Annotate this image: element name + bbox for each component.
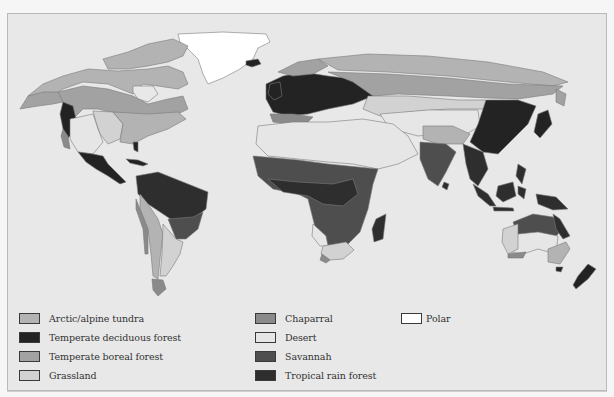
greenland-polar	[178, 32, 270, 84]
world-map	[8, 14, 606, 301]
borneo	[496, 182, 516, 202]
legend-item-savannah: Savannah	[255, 349, 331, 363]
new-zealand	[573, 264, 596, 289]
legend-item-desert: Desert	[255, 330, 317, 344]
legend-label: Grassland	[49, 370, 97, 381]
swatch-arctic-alpine-tundra	[19, 313, 40, 324]
alaska	[20, 92, 63, 109]
legend-item-arctic-alpine-tundra: Arctic/alpine tundra	[19, 311, 144, 325]
legend-item-tropical-rain-forest: Tropical rain forest	[255, 368, 376, 382]
caribbean	[126, 159, 148, 166]
canada-arctic-islands	[103, 39, 188, 69]
scandinavia	[278, 59, 328, 76]
legend-label: Polar	[426, 313, 450, 324]
swatch-chaparral	[255, 313, 276, 324]
swatch-tropical-rain-forest	[255, 370, 276, 381]
swatch-polar	[401, 313, 422, 324]
swatch-temperate-boreal-forest	[19, 351, 40, 362]
india	[420, 142, 456, 186]
sumatra	[473, 184, 496, 206]
patagonia	[152, 279, 166, 296]
philippines	[516, 164, 526, 184]
swatch-savannah	[255, 351, 276, 362]
sri-lanka	[442, 182, 449, 190]
biome-map-figure: Arctic/alpine tundra Temperate deciduous…	[7, 13, 607, 391]
north-america-east-forest	[113, 112, 186, 144]
swatch-temperate-deciduous-forest	[19, 332, 40, 343]
legend-label: Temperate boreal forest	[49, 351, 163, 362]
florida	[133, 142, 138, 152]
kamchatka	[556, 89, 566, 106]
central-america	[78, 152, 126, 184]
legend-item-temperate-boreal-forest: Temperate boreal forest	[19, 349, 163, 363]
sulawesi	[518, 186, 526, 199]
legend-item-polar: Polar	[401, 311, 450, 325]
australia-west-grassland	[502, 224, 518, 254]
legend-item-chaparral: Chaparral	[255, 311, 333, 325]
madagascar	[372, 214, 386, 242]
legend-label: Desert	[285, 332, 317, 343]
swatch-grassland	[19, 370, 40, 381]
map-legend: Arctic/alpine tundra Temperate deciduous…	[8, 301, 606, 390]
legend-item-grassland: Grassland	[19, 368, 97, 382]
legend-label: Temperate deciduous forest	[49, 332, 181, 343]
legend-label: Arctic/alpine tundra	[49, 313, 144, 324]
legend-label: Tropical rain forest	[285, 370, 376, 381]
japan	[534, 110, 552, 138]
tasmania	[556, 267, 563, 272]
legend-label: Chaparral	[285, 313, 333, 324]
legend-item-temperate-deciduous-forest: Temperate deciduous forest	[19, 330, 181, 344]
swatch-desert	[255, 332, 276, 343]
world-map-graphic	[8, 14, 606, 301]
new-guinea	[536, 194, 568, 210]
java	[493, 207, 514, 211]
legend-label: Savannah	[285, 351, 331, 362]
